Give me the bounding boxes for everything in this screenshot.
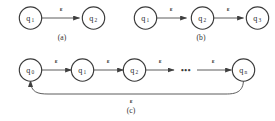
state-label-b-q2: q [198, 14, 202, 23]
panel-a: ε q 1 q 2 (a) [19, 5, 104, 42]
ellipsis-c: ••• [181, 66, 191, 75]
state-sub-c-qn: n [245, 69, 248, 75]
state-label-b-q1: q [141, 14, 145, 23]
state-c-q2[interactable]: q 2 [123, 59, 145, 81]
state-b-q1[interactable]: q 1 [134, 7, 156, 29]
figure-canvas: ε q 1 q 2 (a) ε ε [0, 0, 275, 121]
state-sub-c-q2: 2 [136, 69, 139, 75]
state-circle-c-q2[interactable] [123, 59, 145, 81]
state-b-q3[interactable]: q 3 [246, 7, 268, 29]
state-label-a-q1: q [26, 14, 30, 23]
epsilon-label-c-loop: ε [130, 97, 133, 104]
state-sub-b-q1: 1 [147, 17, 150, 23]
epsilon-label-b-1: ε [170, 5, 173, 12]
state-c-q1[interactable]: q 1 [71, 59, 93, 81]
epsilon-label-c-3: ε [159, 57, 162, 64]
state-circle-c-q0[interactable] [19, 59, 41, 81]
automata-figure: ε q 1 q 2 (a) ε ε [0, 0, 275, 121]
caption-panel-b: (b) [197, 33, 206, 42]
caption-panel-a: (a) [58, 33, 67, 42]
state-a-q2[interactable]: q 2 [82, 7, 104, 29]
state-sub-b-q3: 3 [259, 17, 262, 23]
epsilon-label-c-4: ε [212, 57, 215, 64]
state-circle-a-q1[interactable] [19, 7, 41, 29]
feedback-loop-qn-to-q0 [31, 80, 244, 95]
state-sub-c-q1: 1 [84, 69, 87, 75]
epsilon-label-c-2: ε [107, 57, 110, 64]
state-sub-c-q0: 0 [32, 69, 35, 75]
state-sub-a-q1: 1 [32, 17, 35, 23]
state-label-c-qn: q [239, 66, 243, 75]
state-sub-b-q2: 2 [204, 17, 207, 23]
caption-panel-c: (c) [127, 106, 136, 115]
state-label-a-q2: q [89, 14, 93, 23]
state-c-qn[interactable]: q n [232, 59, 254, 81]
state-circle-b-q1[interactable] [134, 7, 156, 29]
state-b-q2[interactable]: q 2 [191, 7, 213, 29]
state-circle-c-q1[interactable] [71, 59, 93, 81]
state-sub-a-q2: 2 [95, 17, 98, 23]
epsilon-label-a-1: ε [60, 5, 63, 12]
state-circle-c-qn[interactable] [232, 59, 254, 81]
epsilon-label-c-1: ε [55, 57, 58, 64]
panel-c: ε ε ε ε ••• ε q 0 q [19, 57, 254, 115]
state-circle-b-q3[interactable] [246, 7, 268, 29]
state-circle-b-q2[interactable] [191, 7, 213, 29]
state-label-b-q3: q [253, 14, 257, 23]
state-label-c-q2: q [130, 66, 134, 75]
state-c-q0[interactable]: q 0 [19, 59, 41, 81]
state-circle-a-q2[interactable] [82, 7, 104, 29]
state-label-c-q0: q [26, 66, 30, 75]
state-label-c-q1: q [78, 66, 82, 75]
epsilon-label-b-2: ε [227, 5, 230, 12]
panel-b: ε ε q 1 q 2 q 3 (b) [134, 5, 268, 42]
state-a-q1[interactable]: q 1 [19, 7, 41, 29]
